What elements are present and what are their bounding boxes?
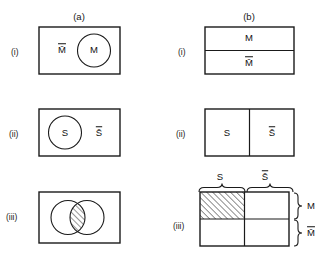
row-i-text-a: (i) xyxy=(11,47,19,57)
venn-S-comp-text: S̄ xyxy=(96,127,102,138)
map-M-top-label: M xyxy=(245,33,253,43)
map-S-right-label: S̄ xyxy=(269,128,275,138)
venn-intersection-graphic xyxy=(38,191,121,244)
brace-Mbar-text: M̄ xyxy=(307,227,315,238)
brace-M-text: M xyxy=(307,200,315,211)
column-a-label: (a) xyxy=(73,11,85,22)
venn-S-set-label: S xyxy=(62,128,68,138)
venn-S-graphic xyxy=(38,108,121,157)
venn-S-complement-label: S̄ xyxy=(96,128,102,138)
panel-a-i xyxy=(38,26,121,75)
column-b-label: (b) xyxy=(243,11,255,22)
panel-a-ii xyxy=(38,108,121,157)
panel-b-iii xyxy=(199,191,292,247)
map-MS-right-brace-top-label: M xyxy=(307,201,315,211)
row-label-iii-b: (iii) xyxy=(173,222,184,231)
row-label-i-a: (i) xyxy=(11,48,19,57)
column-heading-a: (a) xyxy=(38,12,120,22)
row-iii-text-a: (iii) xyxy=(6,212,17,222)
panel-a-iii xyxy=(38,191,121,244)
column-heading-b: (b) xyxy=(203,12,295,22)
map-MS-graphic xyxy=(199,191,292,247)
map-S-right-text: S̄ xyxy=(269,127,275,138)
row-ii-text-b: (ii) xyxy=(176,129,185,139)
brace-S-text: S xyxy=(217,171,223,182)
row-i-text-b: (i) xyxy=(178,47,186,57)
venn-S-set-text: S xyxy=(62,127,68,138)
map-S-left-text: S xyxy=(224,127,230,138)
set-text: M xyxy=(90,44,98,55)
right-brace-graphic xyxy=(292,191,304,247)
universe-text: M̄ xyxy=(58,44,66,55)
row-label-ii-b: (ii) xyxy=(176,130,185,139)
map-M-top-text: M xyxy=(245,32,253,43)
figure-root: (a) (b) (i) (ii) (iii) (i) (ii) (iii) M̄… xyxy=(0,0,335,260)
venn-M-universe-label: M̄ xyxy=(58,45,66,55)
row-ii-text-a: (ii) xyxy=(9,129,18,139)
row-label-iii-a: (iii) xyxy=(6,213,17,222)
map-MS-right-brace-bottom-label: M̄ xyxy=(307,228,315,238)
row-iii-text-b: (iii) xyxy=(173,221,184,231)
map-S-left-label: S xyxy=(224,128,230,138)
venn-M-set-label: M xyxy=(90,45,98,55)
map-MS-top-brace-left-label: S xyxy=(217,172,223,182)
row-label-i-b: (i) xyxy=(178,48,186,57)
map-M-bottom-label: M̄ xyxy=(245,58,253,68)
row-label-ii-a: (ii) xyxy=(9,130,18,139)
brace-Sbar-text: S̄ xyxy=(262,171,268,182)
map-M-bottom-text: M̄ xyxy=(245,57,253,68)
panel-b-ii xyxy=(204,108,295,157)
venn-M-graphic xyxy=(38,26,121,75)
map-MS-right-braces xyxy=(292,191,304,247)
map-S-graphic xyxy=(204,108,295,157)
map-MS-top-brace-right-label: S̄ xyxy=(262,172,268,182)
